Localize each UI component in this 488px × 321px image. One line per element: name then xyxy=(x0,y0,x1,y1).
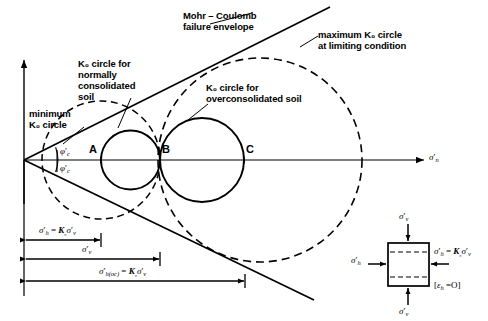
soil-element-inset xyxy=(368,224,449,305)
label-mohr-coulomb-line2: failure envelope xyxy=(183,21,254,32)
point-label-a: A xyxy=(89,143,97,155)
label-nc-circle-line1: K₀ circle for xyxy=(78,58,131,69)
label-oc-circle-line1: K₀ circle for xyxy=(206,82,259,93)
inset-label-sigma-v-bottom: σ′v xyxy=(399,306,408,317)
inset-label-sigma-h-left: σ′h xyxy=(351,255,361,266)
dimension-label-sigma-v: σ′v xyxy=(82,244,91,255)
inset-label-sigma-h-right: σ′h = K₀σ′v xyxy=(434,246,471,257)
label-max-k0-line2: at limiting condition xyxy=(318,40,406,51)
label-min-k0-line1: minimum xyxy=(29,108,71,119)
label-max-k0-line1: maximum K₀ circle xyxy=(318,29,402,40)
point-label-c: C xyxy=(246,143,254,155)
label-nc-circle-line4: soil xyxy=(78,91,94,102)
leader-max-k0 xyxy=(300,36,318,47)
failure-envelope-upper-line xyxy=(24,7,330,160)
soil-element-box xyxy=(388,243,429,286)
leader-nc-circle xyxy=(118,98,131,128)
dimension-label-sigma-h-nc: σ′h = K₀σ′v xyxy=(39,225,76,236)
inset-label-strain-condition: [εh =O] xyxy=(434,280,461,291)
dimension-label-sigma-h-oc: σ′h(oc) = K₀σ′v xyxy=(99,266,146,277)
mohr-circle-diagram: Mohr – Coulomb failure envelope maximum … xyxy=(0,0,488,321)
axis-label-sigma-n: σ′n xyxy=(429,152,439,163)
dimension-lines xyxy=(26,233,245,288)
inset-label-sigma-v-top: σ′v xyxy=(399,211,408,222)
label-phi-angle-lower: φ′c xyxy=(60,163,70,174)
label-phi-angle-upper: φ′c xyxy=(60,146,70,157)
label-oc-circle-line2: overconsolidated soil xyxy=(206,93,302,104)
label-nc-circle-line3: consolidated xyxy=(78,80,135,91)
label-mohr-coulomb-line1: Mohr – Coulomb xyxy=(183,10,257,21)
label-nc-circle-line2: normally xyxy=(78,69,117,80)
label-min-k0-line2: K₀ circle xyxy=(29,119,67,130)
point-label-b: B xyxy=(162,143,170,155)
diagram-canvas xyxy=(0,0,488,321)
